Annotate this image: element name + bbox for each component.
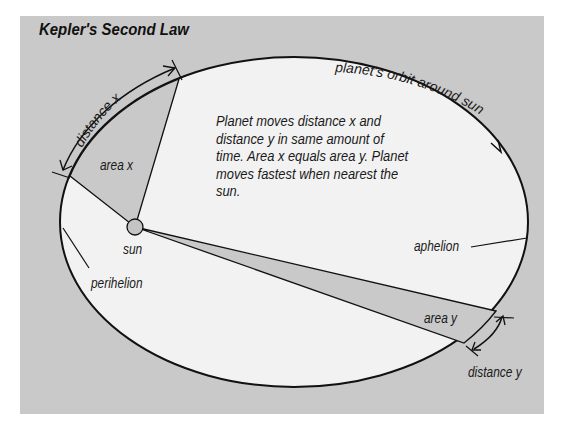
- sun-icon: [127, 219, 143, 235]
- perihelion-label: perihelion: [91, 275, 143, 291]
- aphelion-label: aphelion: [414, 238, 459, 254]
- area-x-label: area x: [100, 157, 133, 173]
- description-text: Planet moves distance x and distance y i…: [216, 112, 414, 200]
- area-y-label: area y: [424, 310, 457, 326]
- sun-label: sun: [123, 241, 142, 257]
- diagram-title: Kepler's Second Law: [39, 20, 189, 40]
- distance-y-label: distance y: [468, 364, 522, 380]
